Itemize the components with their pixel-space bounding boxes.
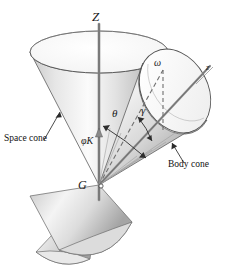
axis-z-label: z	[206, 64, 209, 72]
mechanics-figure: Z z ω θ γ φK G Space cone Body cone	[0, 0, 232, 277]
axis-Z-label: Z	[92, 10, 99, 23]
gamma-label: γ	[141, 105, 145, 116]
space-cone-label: Space cone	[4, 134, 47, 144]
body-cone-label: Body cone	[168, 160, 209, 170]
mass-center-label: G	[78, 179, 87, 191]
theta-label: θ	[112, 108, 117, 119]
omega-label: ω	[154, 58, 161, 68]
phi-k-label: φK	[81, 136, 93, 146]
apex-point-marker	[99, 184, 103, 188]
